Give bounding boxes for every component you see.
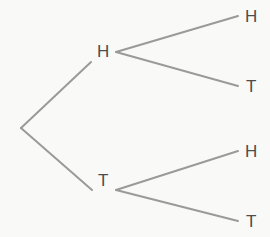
edge-t-to-th: [116, 151, 238, 190]
leaf-label-hh: H: [245, 8, 257, 25]
leaf-label-tt: T: [246, 213, 256, 230]
edge-h-to-ht: [116, 52, 238, 86]
node-label-t: T: [98, 172, 108, 189]
node-label-h: H: [97, 43, 109, 60]
leaf-label-th: H: [245, 143, 257, 160]
edge-h-to-hh: [116, 16, 238, 52]
edge-t-to-tt: [116, 190, 238, 221]
edge-root-to-h: [21, 62, 91, 128]
probability-tree-diagram: H T H T H T: [0, 0, 270, 237]
leaf-label-ht: T: [246, 78, 256, 95]
edge-root-to-t: [21, 128, 92, 190]
tree-edges-svg: [0, 0, 270, 237]
